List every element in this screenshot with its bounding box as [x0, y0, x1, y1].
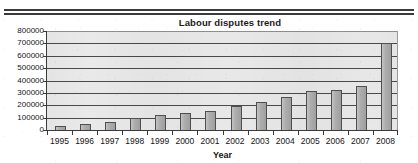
bar [231, 106, 242, 130]
y-axis-tick-label: 200000 [0, 101, 44, 109]
x-axis-tick-mark [248, 131, 249, 135]
y-axis-tick-label: 800000 [0, 27, 44, 35]
x-axis-tick-mark [223, 131, 224, 135]
x-axis-tick-mark [122, 131, 123, 135]
y-axis-tick-label: 600000 [0, 52, 44, 60]
x-axis-tick-label: 2002 [223, 136, 248, 147]
x-axis-tick-label: 2008 [373, 136, 398, 147]
x-axis-tick-mark [348, 131, 349, 135]
bar [155, 115, 166, 130]
x-axis-tick-label: 1996 [72, 136, 97, 147]
bar [256, 102, 267, 130]
x-axis-tick-mark [47, 131, 48, 135]
x-axis-tick-label: 2004 [273, 136, 298, 147]
x-axis-tick-labels: 1995199619971998199920002001200220032004… [47, 136, 398, 147]
x-axis-tick-mark [373, 131, 374, 135]
x-axis-tick-label: 1995 [47, 136, 72, 147]
y-axis-tick-label: 400000 [0, 77, 44, 85]
plot-area [47, 31, 398, 130]
x-axis-tick-label: 2000 [172, 136, 197, 147]
y-axis-tick-label: 700000 [0, 39, 44, 47]
x-axis-tick-label: 1998 [122, 136, 147, 147]
bar [381, 43, 392, 130]
bar [205, 111, 216, 130]
x-axis-tick-mark [172, 131, 173, 135]
bar [281, 97, 292, 130]
x-axis-tick-mark [72, 131, 73, 135]
y-axis-tick-label: 300000 [0, 89, 44, 97]
y-axis-tick-label: 0 [0, 126, 44, 134]
x-axis-tick-label: 1999 [147, 136, 172, 147]
bar [356, 86, 367, 130]
x-axis-title: Year [47, 150, 398, 161]
y-axis-tick-label: 100000 [0, 114, 44, 122]
x-axis-tick-mark [323, 131, 324, 135]
x-axis-tick-mark [397, 131, 398, 135]
y-axis-line [46, 31, 47, 130]
x-axis-tick-label: 2003 [248, 136, 273, 147]
bar [105, 122, 116, 130]
bar-series [47, 31, 398, 130]
page-divider-rules [4, 9, 414, 15]
plot-right-edge [397, 31, 398, 130]
divider-rule-bottom [4, 13, 414, 15]
x-axis-tick-label: 1997 [97, 136, 122, 147]
chart-title: Labour disputes trend [48, 17, 412, 29]
x-axis-tick-mark [298, 131, 299, 135]
x-axis-tick-mark [273, 131, 274, 135]
x-axis-tick-label: 2005 [298, 136, 323, 147]
x-axis-tick-mark [147, 131, 148, 135]
x-axis-tick-label: 2006 [323, 136, 348, 147]
x-axis-tick-label: 2001 [197, 136, 222, 147]
x-axis-tick-mark [197, 131, 198, 135]
chart-figure: Labour disputes trend 010000020000030000… [0, 0, 418, 163]
y-axis-tick-label: 500000 [0, 64, 44, 72]
divider-rule-top [4, 9, 414, 11]
bar [180, 113, 191, 130]
bar [130, 118, 141, 130]
x-axis-tick-label: 2007 [348, 136, 373, 147]
x-axis-tick-mark [97, 131, 98, 135]
bar [306, 91, 317, 130]
bar [331, 90, 342, 130]
x-axis-line [46, 130, 398, 131]
